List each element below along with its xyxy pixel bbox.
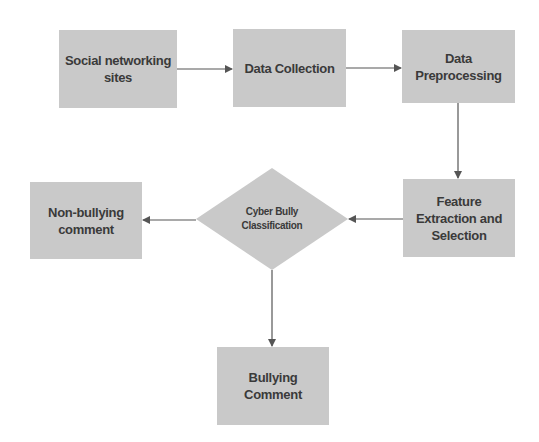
node-label: Data Collection [244,60,334,77]
node-data-preprocessing: Data Preprocessing [402,30,515,103]
node-social-networking-sites: Social networking sites [59,30,177,108]
node-data-collection: Data Collection [233,29,346,107]
node-label: Non-bullying comment [48,204,124,238]
node-non-bullying-comment: Non-bullying comment [30,182,142,259]
node-label: Feature Extraction and Selection [416,193,502,244]
node-label: Data Preprocessing [415,50,501,84]
node-bullying-comment: Bullying Comment [217,347,329,425]
node-feature-extraction-selection: Feature Extraction and Selection [403,179,515,257]
node-label: Bullying Comment [244,369,302,403]
node-label: Cyber Bully Classification [242,205,303,233]
node-label: Social networking sites [65,52,171,86]
node-cyber-bully-classification: Cyber Bully Classification [222,199,322,239]
